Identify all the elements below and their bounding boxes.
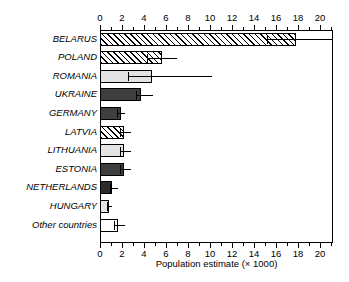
error-bar-line	[120, 151, 131, 152]
error-bar-cap	[267, 35, 268, 44]
error-bar-cap	[136, 91, 137, 100]
axis-tick-label: 2	[110, 13, 134, 23]
axis-tick-major	[210, 25, 211, 30]
axis-tick-label: 8	[176, 13, 200, 23]
axis-tick-minor	[243, 27, 244, 30]
axis-tick-major	[100, 25, 101, 30]
error-bar-line	[117, 113, 126, 114]
error-bar-line	[136, 95, 153, 96]
axis-tick-label: 20	[308, 13, 332, 23]
axis-tick-label: 6	[154, 13, 178, 23]
error-bar-line	[114, 225, 125, 226]
category-label-belarus: BELARUS	[0, 34, 97, 44]
axis-tick-minor	[331, 27, 332, 30]
error-bar-cap	[120, 165, 121, 174]
axis-tick-minor	[155, 243, 156, 246]
axis-tick-major	[254, 25, 255, 30]
axis-tick-minor	[111, 27, 112, 30]
axis-tick-major	[188, 25, 189, 30]
error-bar-cap	[110, 184, 111, 193]
axis-tick-major	[298, 25, 299, 30]
category-label-latvia: LATVIA	[0, 127, 97, 137]
axis-tick-label: 10	[198, 13, 222, 23]
error-bar-cap	[128, 72, 129, 81]
axis-tick-minor	[309, 243, 310, 246]
error-bar-cap	[114, 221, 115, 230]
axis-tick-minor	[111, 243, 112, 246]
axis-tick-major	[122, 25, 123, 30]
error-bar-cap	[120, 147, 121, 156]
category-label-estonia: ESTONIA	[0, 164, 97, 174]
error-bar-cap	[107, 202, 108, 211]
axis-tick-minor	[309, 27, 310, 30]
error-bar-line	[120, 132, 131, 133]
axis-tick-minor	[331, 243, 332, 246]
axis-tick-minor	[265, 27, 266, 30]
axis-tick-minor	[133, 243, 134, 246]
category-label-other-countries: Other countries	[0, 220, 97, 230]
axis-tick-minor	[199, 27, 200, 30]
x-axis-title: Population estimate (× 1000)	[100, 258, 333, 269]
axis-tick-label: 14	[242, 13, 266, 23]
category-label-romania: ROMANIA	[0, 71, 97, 81]
error-bar-line	[120, 169, 131, 170]
error-bar-line	[267, 39, 332, 40]
axis-tick-minor	[243, 243, 244, 246]
error-bar-cap	[120, 128, 121, 137]
axis-tick-major	[232, 25, 233, 30]
category-label-netherlands: NETHERLANDS	[0, 182, 97, 192]
axis-tick-minor	[155, 27, 156, 30]
axis-tick-minor	[177, 27, 178, 30]
axis-tick-minor	[221, 27, 222, 30]
category-label-germany: GERMANY	[0, 108, 97, 118]
axis-tick-label: 12	[220, 13, 244, 23]
axis-tick-minor	[287, 27, 288, 30]
axis-tick-minor	[221, 243, 222, 246]
error-bar-line	[147, 58, 177, 59]
axis-tick-label: 16	[264, 13, 288, 23]
axis-tick-label: 18	[286, 13, 310, 23]
axis-tick-major	[144, 25, 145, 30]
axis-tick-major	[320, 25, 321, 30]
error-bar-cap	[147, 54, 148, 63]
error-bar-line	[128, 76, 213, 77]
bar-ukraine	[100, 88, 141, 101]
axis-tick-minor	[177, 243, 178, 246]
category-label-column: BELARUSPOLANDROMANIAUKRAINEGERMANYLATVIA…	[0, 0, 97, 282]
axis-tick-minor	[133, 27, 134, 30]
axis-tick-major	[166, 25, 167, 30]
axis-tick-minor	[287, 243, 288, 246]
error-bar-line	[110, 188, 118, 189]
category-label-poland: POLAND	[0, 52, 97, 62]
axis-tick-minor	[199, 243, 200, 246]
population-estimate-bar-chart: 02468101214161820 02468101214161820 BELA…	[0, 0, 349, 282]
axis-tick-minor	[265, 243, 266, 246]
axis-tick-major	[276, 25, 277, 30]
category-label-lithuania: LITHUANIA	[0, 145, 97, 155]
error-bar-cap	[117, 109, 118, 118]
category-label-ukraine: UKRAINE	[0, 89, 97, 99]
category-label-hungary: HUNGARY	[0, 201, 97, 211]
axis-tick-label: 4	[132, 13, 156, 23]
